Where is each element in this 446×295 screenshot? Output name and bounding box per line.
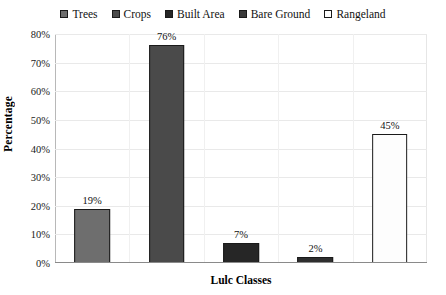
bar-value-label: 2% <box>308 243 322 254</box>
x-axis-title: Lulc Classes <box>55 274 427 286</box>
y-axis-tick-label: 60% <box>31 86 50 97</box>
legend-item-crops[interactable]: Crops <box>112 8 151 20</box>
y-axis-tick-label: 30% <box>31 172 50 183</box>
legend-swatch-bare-ground <box>239 10 247 18</box>
legend-label-trees: Trees <box>72 8 97 20</box>
legend-item-built-area[interactable]: Built Area <box>165 8 225 20</box>
legend-swatch-crops <box>112 10 120 18</box>
bar-rangeland[interactable] <box>372 134 408 263</box>
y-axis-tick-label: 50% <box>31 114 50 125</box>
legend-label-bare-ground: Bare Ground <box>251 8 311 20</box>
y-axis-title: Percentage <box>2 96 16 152</box>
legend-item-bare-ground[interactable]: Bare Ground <box>239 8 311 20</box>
bar-slot: 7% <box>204 34 278 263</box>
legend-swatch-trees <box>60 10 68 18</box>
bar-slot: 76% <box>129 34 203 263</box>
bar-slot: 45% <box>353 34 427 263</box>
bar-crops[interactable] <box>149 45 185 263</box>
x-axis-line <box>55 262 427 263</box>
legend-swatch-rangeland <box>324 10 332 18</box>
y-axis-tick-label: 80% <box>31 29 50 40</box>
y-axis-tick-label: 0% <box>36 258 50 269</box>
bar-value-label: 19% <box>83 195 102 206</box>
y-axis-tick-label: 40% <box>31 143 50 154</box>
legend-swatch-built-area <box>165 10 173 18</box>
legend-label-rangeland: Rangeland <box>336 8 385 20</box>
y-axis-tick-label: 70% <box>31 57 50 68</box>
legend-item-trees[interactable]: Trees <box>60 8 97 20</box>
legend-label-built-area: Built Area <box>177 8 225 20</box>
plot-area: 0%10%20%30%40%50%60%70%80% 19%76%7%2%45% <box>55 34 427 263</box>
y-axis-tick-label: 10% <box>31 229 50 240</box>
y-axis-tick-label: 20% <box>31 200 50 211</box>
legend-item-rangeland[interactable]: Rangeland <box>324 8 385 20</box>
bar-value-label: 45% <box>380 120 399 131</box>
bar-trees[interactable] <box>74 209 110 263</box>
chart-legend: Trees Crops Built Area Bare Ground Range… <box>0 8 446 20</box>
bar-chart: Trees Crops Built Area Bare Ground Range… <box>0 0 446 295</box>
bar-slot: 2% <box>278 34 352 263</box>
bar-value-label: 76% <box>157 31 176 42</box>
bar-slot: 19% <box>55 34 129 263</box>
legend-label-crops: Crops <box>124 8 151 20</box>
bar-built-area[interactable] <box>223 243 259 263</box>
bar-value-label: 7% <box>234 229 248 240</box>
bars-layer: 19%76%7%2%45% <box>55 34 427 263</box>
